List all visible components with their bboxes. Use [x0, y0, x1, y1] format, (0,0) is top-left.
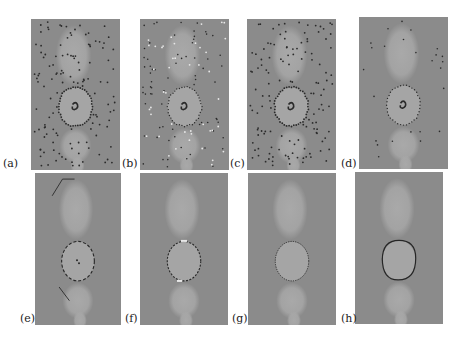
upper-blob [59, 179, 93, 240]
upper-blob [272, 25, 308, 85]
upper-blob [164, 179, 199, 240]
center-region [387, 85, 421, 125]
center-region [382, 240, 415, 280]
center-region [275, 87, 309, 126]
panel-c [247, 19, 336, 170]
panel-label-f: (f) [125, 313, 138, 324]
panel-a [31, 19, 120, 170]
panel-label-d: (d) [341, 158, 357, 169]
upper-blob [379, 178, 414, 239]
panel-label-b: (b) [122, 158, 138, 169]
upper-blob [272, 179, 307, 240]
panel-label-g: (g) [232, 313, 248, 324]
center-region [59, 87, 93, 126]
panel-label-a: (a) [3, 158, 18, 169]
panel-f [140, 173, 228, 325]
panel-b [140, 19, 229, 170]
panel-e [35, 173, 121, 325]
panel-label-e: (e) [20, 313, 35, 324]
panel-label-c: (c) [230, 158, 245, 169]
panel-h [355, 172, 443, 324]
panel-g [248, 173, 336, 325]
panel-d [359, 17, 448, 169]
upper-blob [384, 23, 420, 84]
panel-label-h: (h) [341, 313, 357, 324]
